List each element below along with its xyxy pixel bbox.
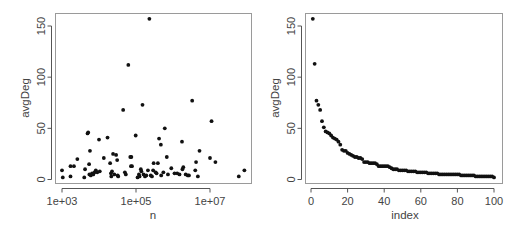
data-point: [322, 125, 326, 129]
data-point: [311, 17, 315, 21]
data-point: [313, 62, 317, 66]
data-point: [106, 136, 110, 140]
x-axis: 1e+031e+051e+07: [47, 189, 226, 207]
data-point: [214, 160, 218, 164]
figure: 050100150 1e+031e+051e+07 n avgDeg 05010…: [0, 0, 524, 231]
x-axis-title: n: [150, 209, 156, 221]
data-point: [180, 140, 184, 144]
data-point: [181, 167, 185, 171]
y-axis: 050100150: [285, 17, 302, 183]
y-tick-label: 100: [35, 68, 47, 86]
x-tick-label: 100: [485, 195, 503, 207]
x-tick-label: 1e+05: [121, 195, 152, 207]
y-tick-label: 100: [285, 68, 297, 86]
data-point: [126, 63, 130, 67]
x-axis-title: index: [391, 209, 419, 221]
y-axis: 050100150: [35, 17, 52, 183]
data-point: [166, 172, 170, 176]
x-tick-label: 40: [378, 195, 390, 207]
data-points: [60, 17, 246, 179]
data-point: [165, 155, 169, 159]
plot-frame: [306, 14, 503, 184]
data-point: [316, 103, 320, 107]
data-point: [320, 119, 324, 123]
data-point: [72, 164, 76, 168]
x-tick-label: 60: [415, 195, 427, 207]
y-tick-label: 150: [285, 17, 297, 35]
plot-frame: [56, 14, 252, 184]
data-point: [134, 134, 138, 138]
data-point: [318, 108, 322, 112]
data-point: [69, 175, 73, 179]
data-point: [87, 162, 91, 166]
data-point: [169, 166, 173, 170]
y-axis-title: avgDeg: [269, 78, 281, 118]
data-point: [208, 156, 212, 160]
data-point: [69, 164, 73, 168]
data-point: [108, 161, 112, 165]
data-point: [178, 172, 182, 176]
x-tick-label: 1e+07: [195, 195, 226, 207]
data-point: [242, 168, 246, 172]
data-point: [161, 170, 165, 174]
data-point: [156, 161, 160, 165]
data-point: [187, 174, 191, 178]
data-point: [97, 138, 101, 142]
data-point: [315, 99, 319, 103]
data-point: [147, 17, 151, 21]
data-point: [144, 174, 148, 178]
x-tick-label: 80: [451, 195, 463, 207]
data-point: [152, 161, 156, 165]
data-point: [141, 103, 145, 107]
data-point: [82, 176, 86, 180]
data-point: [194, 160, 198, 164]
data-point: [150, 175, 154, 179]
data-point: [60, 168, 64, 172]
data-points: [311, 17, 496, 179]
data-point: [102, 156, 106, 160]
data-point: [61, 176, 65, 180]
data-point: [115, 158, 119, 162]
data-point: [163, 126, 167, 130]
y-tick-label: 0: [285, 176, 297, 182]
data-point: [129, 155, 133, 159]
data-point: [110, 169, 114, 173]
data-point: [75, 157, 79, 161]
data-point: [237, 175, 241, 179]
data-point: [159, 143, 163, 147]
y-tick-label: 50: [285, 122, 297, 134]
data-point: [196, 175, 200, 179]
data-point: [159, 174, 163, 178]
y-axis-title: avgDeg: [19, 78, 31, 118]
data-point: [98, 169, 102, 173]
data-point: [338, 143, 342, 147]
data-point: [155, 171, 159, 175]
data-point: [146, 168, 150, 172]
data-point: [124, 172, 128, 176]
data-point: [130, 164, 134, 168]
data-point: [492, 176, 496, 180]
data-point: [112, 172, 116, 176]
scatter-plot-avgdeg-vs-index: 050100150 020406080100 index avgDeg: [262, 0, 524, 231]
scatter-plot-avgdeg-vs-n: 050100150 1e+031e+051e+07 n avgDeg: [0, 0, 262, 231]
data-point: [198, 149, 202, 153]
data-point: [116, 175, 120, 179]
x-tick-label: 1e+03: [47, 195, 78, 207]
y-tick-label: 150: [35, 17, 47, 35]
data-point: [138, 175, 142, 179]
y-tick-label: 0: [35, 176, 47, 182]
x-tick-label: 20: [341, 195, 353, 207]
y-tick-label: 50: [35, 122, 47, 134]
data-point: [114, 153, 118, 157]
x-tick-label: 0: [308, 195, 314, 207]
data-point: [190, 99, 194, 103]
data-point: [88, 149, 92, 153]
data-point: [140, 169, 144, 173]
data-point: [83, 167, 87, 171]
data-point: [86, 131, 90, 135]
data-point: [210, 119, 214, 123]
x-axis: 020406080100: [308, 189, 503, 207]
data-point: [157, 137, 161, 141]
data-point: [121, 108, 125, 112]
data-point: [193, 168, 197, 172]
